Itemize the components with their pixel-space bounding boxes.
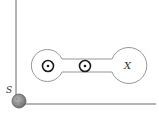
diagram-canvas: X S: [0, 0, 159, 114]
label-s: S: [6, 85, 12, 95]
dot-symbol-left: [43, 61, 54, 72]
diagram-svg: X S: [0, 0, 159, 114]
label-x: X: [123, 60, 132, 71]
sphere-s: [12, 94, 26, 108]
dot-symbol-middle: [80, 61, 91, 72]
